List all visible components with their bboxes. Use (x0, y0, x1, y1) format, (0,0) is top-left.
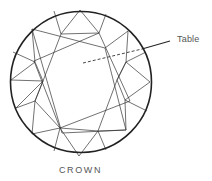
table-pointer-dashed (83, 49, 142, 63)
girdle-outline (11, 12, 152, 153)
table-pointer-solid (142, 41, 170, 49)
table-label: Table (177, 34, 200, 44)
crown-caption: CROWN (59, 165, 102, 175)
crown-diagram (0, 0, 212, 181)
